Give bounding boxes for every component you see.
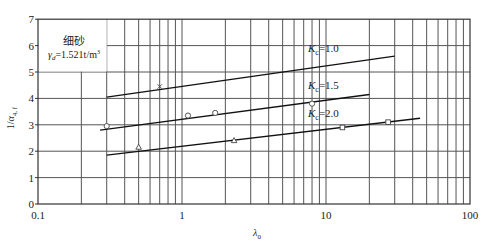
series-labels: Kc=1.0Kc=1.5Kc=2.0 (307, 42, 339, 122)
chart: 012345670.1110100 Kc=1.0Kc=1.5Kc=2.0 细砂 … (0, 0, 494, 248)
y-tick-label: 1 (29, 172, 35, 184)
y-tick-label: 2 (29, 145, 35, 157)
circle-marker (309, 101, 314, 106)
y-tick-label: 7 (29, 13, 35, 25)
y-tick-label: 3 (29, 119, 35, 131)
y-tick-label: 4 (29, 92, 35, 104)
circle-marker (104, 124, 109, 129)
x-tick-label: 10 (321, 209, 333, 221)
annotation-material: 细砂 (63, 35, 85, 47)
series-lines (100, 56, 420, 155)
x-tick-label: 0.1 (31, 209, 45, 221)
y-axis-label: 1/α4, f (5, 106, 19, 129)
square-marker (340, 125, 345, 130)
y-tick-label: 6 (29, 40, 35, 52)
circle-marker (213, 110, 218, 115)
square-marker (386, 120, 391, 125)
data-markers (104, 84, 390, 149)
x-tick-label: 1 (179, 209, 185, 221)
x-tick-label: 100 (462, 209, 479, 221)
fit-line (107, 118, 420, 155)
circle-marker (185, 113, 190, 118)
triangle-marker (136, 144, 142, 149)
y-tick-label: 5 (29, 66, 35, 78)
x-axis-label: λ0 (252, 227, 261, 241)
